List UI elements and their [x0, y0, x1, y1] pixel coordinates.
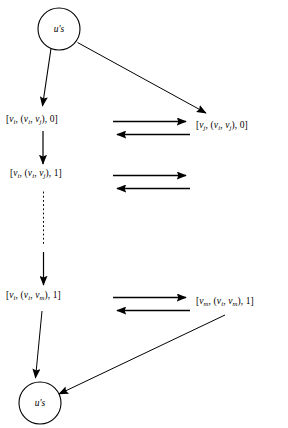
- vertex-subscript: i: [18, 172, 20, 179]
- vertex-symbol: v: [9, 290, 13, 300]
- bracket-close: ]: [245, 120, 248, 130]
- vertex-symbol: v: [13, 168, 17, 178]
- end-state-label: u's: [20, 398, 60, 408]
- edge-start-to-left-1: [43, 49, 52, 107]
- comma: ,: [30, 114, 32, 124]
- bracket-close: ]: [58, 290, 61, 300]
- edge-from-subscript: i: [28, 294, 30, 301]
- edge-from-subscript: i: [28, 118, 30, 125]
- bracket-close: ]: [55, 114, 58, 124]
- edge-start-to-right-1: [78, 43, 207, 114]
- vertex-subscript: i: [14, 118, 16, 125]
- comma: ,: [34, 168, 36, 178]
- vertex-symbol: v: [199, 296, 203, 306]
- vertex-subscript: j: [204, 124, 206, 131]
- edge-right-2-to-end: [59, 315, 225, 394]
- state-label-right-1: [vj, (vi, vj), 0]: [196, 121, 248, 131]
- vertex-subscript: i: [14, 294, 16, 301]
- bracket-close: ]: [251, 296, 254, 306]
- comma: ,: [45, 114, 47, 124]
- edge-to-subscript: m: [232, 300, 237, 307]
- state-label-left-2: [vi, (vi, vj), 1]: [10, 169, 62, 179]
- vertex-symbol: v: [199, 120, 203, 130]
- state-label-left-3: [vi, (vi, vm), 1]: [6, 291, 61, 301]
- diagram-canvas: u's u's [vi, (vi, vj), 0] [vi, (vi, vj),…: [0, 0, 288, 428]
- diagram-vector-layer: [0, 0, 288, 428]
- vertex-subscript: m: [204, 300, 209, 307]
- comma: ,: [235, 120, 237, 130]
- comma: ,: [49, 168, 51, 178]
- comma: ,: [30, 290, 32, 300]
- comma: ,: [223, 296, 225, 306]
- edge-left-3-to-end: [36, 311, 43, 378]
- edge-to-subscript: m: [39, 294, 44, 301]
- state-label-right-2: [vm, (vi, vm), 1]: [196, 297, 254, 307]
- start-state-label: u's: [39, 24, 79, 34]
- comma: ,: [48, 290, 50, 300]
- comma: ,: [220, 120, 222, 130]
- edge-from-subscript: i: [221, 300, 223, 307]
- vertex-symbol: v: [9, 114, 13, 124]
- comma: ,: [241, 296, 243, 306]
- state-label-left-1: [vi, (vi, vj), 0]: [6, 115, 58, 125]
- edge-from-subscript: i: [218, 124, 220, 131]
- edge-from-subscript: i: [32, 172, 34, 179]
- bracket-close: ]: [59, 168, 62, 178]
